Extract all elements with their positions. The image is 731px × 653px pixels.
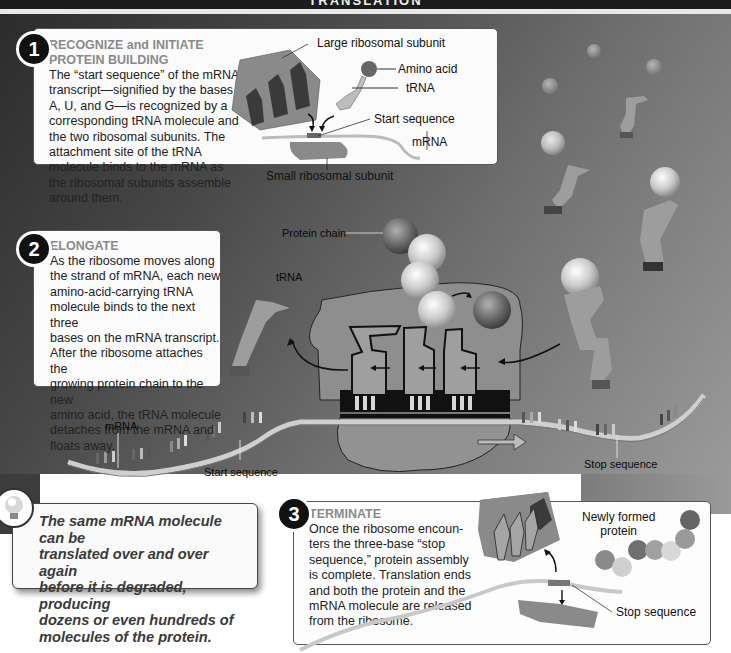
text-line: and both the protein and the — [309, 584, 489, 599]
text-line: As the ribosome moves along — [50, 254, 222, 269]
tip-text: The same mRNA molecule can be translated… — [39, 513, 247, 645]
text-line: amino-acid-carrying tRNA — [50, 285, 222, 300]
label-mrna-elongate: mRNA — [105, 420, 137, 432]
text-line: protein — [582, 524, 655, 538]
text-line: The same mRNA molecule can be — [39, 513, 247, 546]
label-trna: tRNA — [406, 81, 435, 95]
text-line: The “start sequence” of the mRNA — [49, 68, 259, 83]
label-protein-chain: Protein chain — [282, 227, 346, 239]
label-start-sequence: Start sequence — [374, 112, 455, 126]
step3-body: Once the ribosome encoun- ters the three… — [309, 522, 489, 630]
label-large-ribosomal-subunit: Large ribosomal subunit — [317, 36, 445, 50]
label-small-ribosomal-subunit: Small ribosomal subunit — [266, 169, 393, 183]
text-line: translated over and over again — [39, 546, 247, 579]
step1-heading-line1: RECOGNIZE and INITIATE — [49, 38, 259, 53]
text-line: mRNA molecule are released — [309, 599, 489, 614]
text-line: ters the three-base “stop — [309, 537, 489, 552]
tip-callout: The same mRNA molecule can be translated… — [12, 503, 258, 589]
step3-heading: TERMINATE — [309, 507, 489, 522]
text-line: molecule binds to the next three — [50, 300, 222, 331]
label-mrna: mRNA — [412, 135, 447, 149]
step3-number-badge: 3 — [276, 496, 312, 532]
text-line: After the ribosome attaches the — [50, 346, 222, 377]
text-line: the two ribosomal subunits. The — [49, 130, 259, 145]
step2-number-badge: 2 — [16, 231, 52, 267]
text-line: the ribosomal subunits assemble — [49, 176, 259, 191]
text-line: corresponding tRNA molecule and — [49, 114, 259, 129]
text-line: growing protein chain to the new — [50, 377, 222, 408]
text-line: from the ribosome. — [309, 614, 489, 629]
text-line: before it is degraded, producing — [39, 579, 247, 612]
text-line: A, U, and G—is recognized by a — [49, 99, 259, 114]
text-line: molecule binds to the mRNA as — [49, 160, 259, 175]
text-line: transcript—signified by the bases — [49, 83, 259, 98]
lightbulb-icon — [0, 488, 34, 528]
text-line: sequence,” protein assembly — [309, 553, 489, 568]
text-line: dozens or even hundreds of — [39, 612, 247, 629]
text-line: bases on the mRNA transcript. — [50, 331, 222, 346]
text-line: floats away. — [50, 439, 222, 454]
text-line: attachment site of the tRNA — [49, 145, 259, 160]
step2-panel: ELONGATE As the ribosome moves along the… — [33, 230, 221, 387]
text-line: Newly formed — [582, 510, 655, 524]
text-line: the strand of mRNA, each new — [50, 269, 222, 284]
label-amino-acid: Amino acid — [398, 62, 457, 76]
step2-heading: ELONGATE — [50, 239, 222, 254]
step1-number-badge: 1 — [16, 31, 52, 67]
text-line: molecules of the protein. — [39, 629, 247, 646]
step1-body: The “start sequence” of the mRNA transcr… — [49, 68, 259, 207]
label-stop-sequence-elongate: Stop sequence — [584, 458, 657, 470]
step1-heading-line2: PROTEIN BUILDING — [49, 53, 259, 68]
label-newly-formed-protein: Newly formed protein — [582, 510, 655, 538]
label-trna-elongate: tRNA — [276, 271, 302, 283]
text-line: is complete. Translation ends — [309, 568, 489, 583]
label-start-sequence-elongate: Start sequence — [204, 466, 278, 478]
text-line: around them. — [49, 191, 259, 206]
label-stop-sequence-terminate: Stop sequence — [616, 605, 696, 619]
text-line: Once the ribosome encoun- — [309, 522, 489, 537]
step1-heading: RECOGNIZE and INITIATE PROTEIN BUILDING — [49, 38, 259, 68]
